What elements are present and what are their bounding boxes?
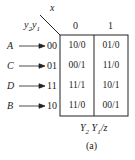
state-label-C: C [7,61,14,71]
cell-C-1: 11/0 [94,61,128,71]
column-variable-label: x [50,3,54,13]
state-code-A: 00 [47,41,57,51]
cell-B-0: 11/0 [60,101,94,111]
state-label-B: B [7,101,13,111]
figure-label: (a) [86,141,97,151]
cell-D-0: 11/1 [60,81,94,91]
cell-A-0: 10/0 [60,41,94,51]
column-header-1: 1 [108,21,113,31]
state-code-C: 01 [47,61,57,71]
state-code-D: 11 [47,81,57,91]
table-caption: Y2 Y1/z [80,123,107,136]
cell-C-0: 00/1 [60,61,94,71]
cell-D-1: 10/1 [94,81,128,91]
state-label-D: D [7,81,14,91]
cell-B-1: 00/1 [94,101,128,111]
state-label-A: A [7,41,13,51]
row-variable-label: y2y1 [24,20,40,33]
cell-A-1: 01/0 [94,41,128,51]
state-code-B: 10 [47,101,57,111]
column-header-0: 0 [73,21,78,31]
